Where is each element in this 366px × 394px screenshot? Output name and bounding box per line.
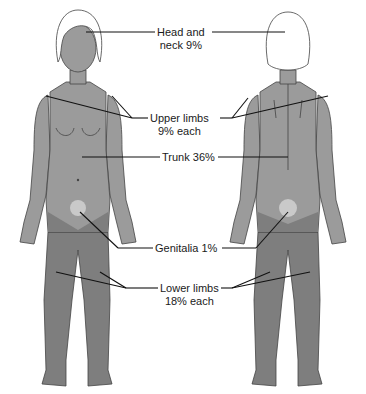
front-figure [20, 10, 136, 386]
label-lower-limbs: Lower limbs 18% each [158, 282, 221, 308]
label-upper-limbs: Upper limbs 9% each [148, 112, 211, 138]
label-trunk: Trunk 36% [160, 151, 217, 164]
back-right-arm [316, 95, 346, 244]
label-head-neck: Head and neck 9% [155, 26, 207, 52]
body-diagram [0, 0, 366, 394]
back-lower-limbs [252, 232, 322, 386]
front-lower-limbs [42, 232, 112, 386]
front-genitalia [70, 200, 86, 216]
back-figure [230, 12, 346, 386]
front-left-arm [20, 95, 50, 244]
back-hair [266, 12, 310, 70]
label-genitalia: Genitalia 1% [153, 242, 219, 255]
back-genitalia [279, 199, 297, 217]
